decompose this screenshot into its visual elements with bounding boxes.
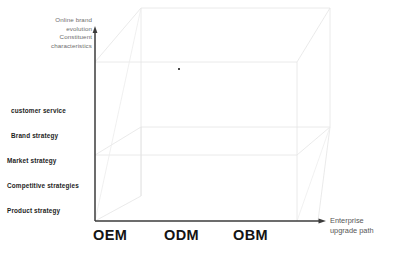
y-axis-title-line-3: Constituent [30, 33, 92, 42]
cube-wireframe [95, 8, 330, 221]
y-axis-arrow-icon [93, 26, 98, 33]
y-axis-title-line-4: characteristics [30, 42, 92, 51]
x-axis-title-line-2: upgrade path [330, 226, 374, 236]
diagram-canvas: Online brand evolution Constituent chara… [0, 0, 393, 254]
cube-diagonal-top-right [297, 8, 330, 62]
cube-diagonal-bottom-left [95, 196, 141, 221]
x-category-obm: OBM [233, 227, 268, 243]
axes [95, 31, 320, 221]
y-axis-title: Online brand evolution Constituent chara… [30, 16, 92, 50]
y-axis-title-line-1: Online brand [30, 16, 92, 25]
cube-diagonal-top-left [95, 8, 141, 62]
y-axis-title-line-2: evolution [30, 25, 92, 34]
x-axis-title-line-1: Enterprise [330, 216, 374, 226]
y-tick-label-competitive-strategies: Competitive strategies [7, 182, 79, 189]
cube-diagonal-mid-left [95, 127, 141, 155]
x-axis-title: Enterprise upgrade path [330, 216, 374, 235]
x-category-oem: OEM [93, 227, 127, 243]
y-tick-label-brand-strategy: Brand strategy [11, 132, 58, 139]
data-point-marker [178, 68, 180, 70]
x-category-odm: ODM [164, 227, 199, 243]
cube-diagonal-interior [95, 8, 141, 221]
y-tick-label-customer-service: customer service [11, 107, 66, 114]
y-tick-label-market-strategy: Market strategy [7, 157, 57, 164]
y-tick-label-product-strategy: Product strategy [7, 207, 60, 214]
cube-diagonal-bottom-right [318, 127, 330, 221]
x-axis-arrow-icon [319, 218, 327, 223]
